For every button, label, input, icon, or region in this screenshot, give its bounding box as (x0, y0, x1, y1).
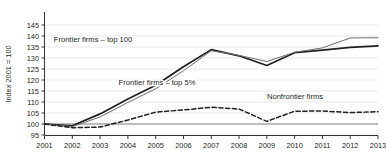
y-tick-label: 140 (27, 32, 39, 41)
line-chart: 95100105110115120125130135140145 2001200… (0, 0, 386, 161)
x-tick-label: 2003 (92, 141, 108, 150)
x-tick-label: 2009 (259, 141, 275, 150)
chart-container: 95100105110115120125130135140145 2001200… (0, 0, 386, 161)
x-tick-labels: 2001200220032004200520062007200820092010… (36, 141, 386, 150)
series-label: Nonfrontier firms (267, 92, 323, 101)
series-label: Frontier firms – top 5% (119, 78, 196, 87)
x-tick-label: 2005 (147, 141, 163, 150)
x-tick-label: 2012 (342, 141, 358, 150)
y-tick-label: 120 (27, 76, 39, 85)
y-axis-title: Index 2001 = 100 (4, 45, 13, 102)
x-tick-label: 2008 (231, 141, 247, 150)
series-paths (45, 38, 379, 128)
series-line (45, 38, 379, 127)
x-tick-label: 2007 (203, 141, 219, 150)
y-tick-label: 130 (27, 54, 39, 63)
x-tick-label: 2010 (286, 141, 302, 150)
y-tick-label: 105 (27, 109, 39, 118)
x-tick-label: 2006 (175, 141, 191, 150)
x-tick-label: 2001 (36, 141, 52, 150)
y-tick-label: 100 (27, 120, 39, 129)
y-tick-label: 115 (27, 87, 39, 96)
y-tick-label: 135 (27, 43, 39, 52)
x-tick-label: 2011 (314, 141, 330, 150)
series-line (45, 107, 379, 127)
y-tick-labels: 95100105110115120125130135140145 (27, 21, 39, 140)
y-tick-label: 95 (31, 131, 39, 140)
x-tick-label: 2004 (120, 141, 136, 150)
x-tick-label: 2002 (64, 141, 80, 150)
x-tick-marks (45, 136, 379, 140)
x-tick-label: 2013 (370, 141, 386, 150)
series-label: Frontier firms – top 100 (54, 35, 133, 44)
y-tick-label: 110 (27, 98, 39, 107)
y-tick-label: 125 (27, 65, 39, 74)
y-tick-label: 145 (27, 21, 39, 30)
